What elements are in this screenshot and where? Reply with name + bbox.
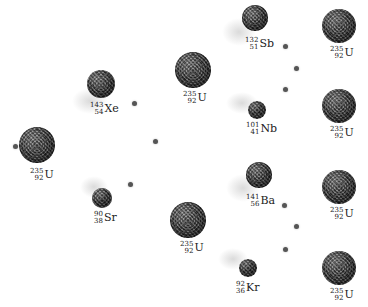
element-symbol: U xyxy=(344,47,353,59)
nucleus-u235-r1 xyxy=(322,9,356,43)
isotope-numbers: 23592 xyxy=(330,126,343,140)
atomic-number: 36 xyxy=(236,288,245,295)
isotope-label-xe143: 14354Xe xyxy=(90,102,119,116)
element-symbol: U xyxy=(344,289,353,301)
element-symbol: Kr xyxy=(246,282,259,294)
isotope-numbers: 14354 xyxy=(90,102,103,116)
nucleus-u235-initial xyxy=(19,127,55,163)
atomic-number: 92 xyxy=(334,214,343,221)
isotope-label-u235-bottom: 23592U xyxy=(180,241,204,255)
isotope-numbers: 9038 xyxy=(94,211,103,225)
isotope-numbers: 23592 xyxy=(30,168,43,182)
nucleus-ba141 xyxy=(246,162,272,188)
nucleus-sb132 xyxy=(242,5,268,31)
element-symbol: U xyxy=(44,169,53,181)
nucleus-xe143 xyxy=(87,70,115,98)
neutron-icon xyxy=(132,101,137,106)
atomic-number: 56 xyxy=(250,201,259,208)
element-symbol: U xyxy=(344,127,353,139)
atomic-number: 51 xyxy=(249,44,258,51)
isotope-numbers: 9236 xyxy=(236,281,245,295)
atomic-number: 92 xyxy=(34,175,43,182)
nucleus-u235-bottom xyxy=(170,202,206,238)
isotope-numbers: 23592 xyxy=(330,46,343,60)
isotope-numbers: 23592 xyxy=(330,288,343,302)
element-symbol: Ba xyxy=(260,195,275,207)
isotope-label-u235-r1: 23592U xyxy=(330,46,354,60)
atomic-number: 92 xyxy=(334,53,343,60)
element-symbol: Sb xyxy=(259,38,274,50)
element-symbol: Xe xyxy=(104,103,118,115)
isotope-label-u235-r3: 23592U xyxy=(330,207,354,221)
nucleus-nb101 xyxy=(248,101,266,119)
isotope-label-u235-r2: 23592U xyxy=(330,126,354,140)
atomic-number: 54 xyxy=(94,109,103,116)
element-symbol: U xyxy=(197,92,206,104)
isotope-label-nb101: 10141Nb xyxy=(246,122,277,136)
isotope-label-u235-initial: 23592U xyxy=(30,168,54,182)
nucleus-sr90 xyxy=(92,188,112,208)
isotope-label-sb132: 13251Sb xyxy=(245,37,274,51)
atomic-number: 92 xyxy=(334,295,343,302)
atomic-number: 92 xyxy=(334,133,343,140)
element-symbol: Sr xyxy=(104,212,117,224)
atomic-number: 92 xyxy=(187,98,196,105)
isotope-numbers: 14156 xyxy=(246,194,259,208)
atomic-number: 41 xyxy=(250,129,259,136)
nucleus-kr92 xyxy=(239,259,257,277)
neutron-icon xyxy=(283,247,288,252)
isotope-label-sr90: 9038Sr xyxy=(94,211,117,225)
neutron-icon xyxy=(128,182,133,187)
neutron-icon xyxy=(13,144,18,149)
isotope-label-u235-top: 23592U xyxy=(183,91,207,105)
isotope-numbers: 13251 xyxy=(245,37,258,51)
neutron-icon xyxy=(283,87,288,92)
nucleus-u235-r3 xyxy=(322,170,356,204)
isotope-label-ba141: 14156Ba xyxy=(246,194,275,208)
neutron-icon xyxy=(153,139,158,144)
atomic-number: 38 xyxy=(94,218,103,225)
isotope-label-kr92: 9236Kr xyxy=(236,281,259,295)
fission-diagram: 23592U14354Xe9038Sr23592U23592U13251Sb10… xyxy=(0,0,368,307)
nucleus-u235-r2 xyxy=(322,89,356,123)
neutron-icon xyxy=(283,44,288,49)
isotope-label-u235-r4: 23592U xyxy=(330,288,354,302)
nucleus-u235-top xyxy=(175,52,211,88)
nucleus-u235-r4 xyxy=(322,251,356,285)
element-symbol: Nb xyxy=(260,123,277,135)
neutron-icon xyxy=(294,66,299,71)
isotope-numbers: 10141 xyxy=(246,122,259,136)
element-symbol: U xyxy=(194,242,203,254)
atomic-number: 92 xyxy=(184,248,193,255)
neutron-icon xyxy=(294,224,299,229)
isotope-numbers: 23592 xyxy=(183,91,196,105)
neutron-icon xyxy=(282,203,287,208)
isotope-numbers: 23592 xyxy=(330,207,343,221)
element-symbol: U xyxy=(344,208,353,220)
isotope-numbers: 23592 xyxy=(180,241,193,255)
